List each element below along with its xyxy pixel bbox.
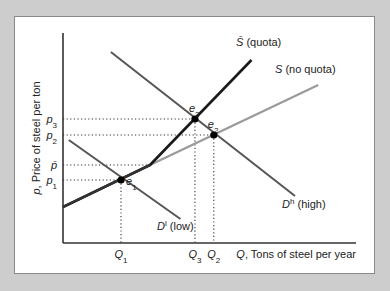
y-tick-label-3: p1 <box>45 174 57 191</box>
supply-quota-curve <box>63 60 252 207</box>
label-e3: e3 <box>189 102 200 119</box>
supply-shared-segment <box>63 165 150 207</box>
label-supply-no-quota: S (no quota) <box>275 63 336 75</box>
label-demand-high: Dh (high) <box>282 197 326 211</box>
label-e1: e1 <box>126 175 137 192</box>
y-tick-label-0: p3 <box>45 113 57 130</box>
supply-demand-chart: e1e3e2p3p2p̄p1Q1Q3Q2Q, Tons of steel per… <box>0 0 390 291</box>
figure-background: e1e3e2p3p2p̄p1Q1Q3Q2Q, Tons of steel per… <box>0 0 390 291</box>
label-demand-low: Dl (low) <box>157 219 194 233</box>
x-axis-title: Q, Tons of steel per year <box>236 248 356 260</box>
demand-high-curve <box>111 52 295 196</box>
y-axis-title: p, Price of steel per ton <box>30 81 42 195</box>
label-e2: e2 <box>208 118 219 135</box>
y-tick-label-1: p2 <box>45 129 57 146</box>
x-tick-label-1: Q3 <box>188 248 202 265</box>
y-tick-label-2: p̄ <box>50 159 57 171</box>
label-supply-quota: S̄ (quota) <box>236 36 281 48</box>
x-tick-label-2: Q2 <box>207 248 221 265</box>
equilibrium-point-e1 <box>117 176 124 183</box>
x-tick-label-0: Q1 <box>114 248 128 265</box>
